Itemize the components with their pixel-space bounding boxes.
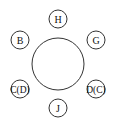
seat-label: G bbox=[92, 35, 99, 46]
seat-lower-right: D(C) bbox=[86, 80, 106, 98]
seat-label: B bbox=[17, 35, 24, 46]
seat-upper-left: B bbox=[11, 31, 29, 49]
seat-bottom: J bbox=[49, 99, 67, 117]
seat-lower-left: C(D) bbox=[10, 80, 30, 98]
seat-label: J bbox=[56, 103, 60, 114]
seat-top: H bbox=[49, 10, 67, 28]
seat-label: C(D) bbox=[10, 85, 30, 96]
round-table bbox=[32, 38, 84, 90]
seat-upper-right: G bbox=[87, 31, 105, 49]
seating-diagram: H B G C(D) D(C) J bbox=[0, 0, 116, 124]
seat-label: D(C) bbox=[86, 85, 106, 96]
seat-label: H bbox=[54, 14, 61, 25]
